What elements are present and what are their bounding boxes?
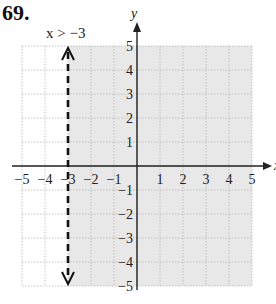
y-tick-label: −3 xyxy=(118,231,133,246)
x-tick-label: 5 xyxy=(249,172,256,187)
inequality-label: x > −3 xyxy=(46,25,85,41)
x-tick-label: 1 xyxy=(157,172,164,187)
x-tick-label: 4 xyxy=(226,172,233,187)
x-tick-label: 3 xyxy=(203,172,210,187)
x-tick-label: −2 xyxy=(84,172,99,187)
x-tick-label: −5 xyxy=(15,172,30,187)
y-tick-label: −2 xyxy=(118,207,133,222)
y-tick-label: −4 xyxy=(118,255,133,270)
y-tick-label: 2 xyxy=(126,111,133,126)
y-axis-label: y xyxy=(129,6,138,21)
y-tick-label: 1 xyxy=(126,135,133,150)
y-tick-label: 3 xyxy=(126,87,133,102)
x-tick-label: −4 xyxy=(38,172,53,187)
y-tick-label: −1 xyxy=(118,183,133,198)
x-tick-label: 2 xyxy=(180,172,187,187)
y-axis-arrow-icon xyxy=(133,22,141,32)
y-tick-label: 4 xyxy=(126,63,133,78)
y-tick-label: 5 xyxy=(126,39,133,54)
inequality-graph: xy−5−4−3−2−11234554321−1−2−3−4−5x > −3 xyxy=(0,0,276,304)
x-axis-label: x xyxy=(273,158,276,173)
x-axis-arrow-icon xyxy=(263,162,272,170)
y-tick-label: −5 xyxy=(118,279,133,294)
